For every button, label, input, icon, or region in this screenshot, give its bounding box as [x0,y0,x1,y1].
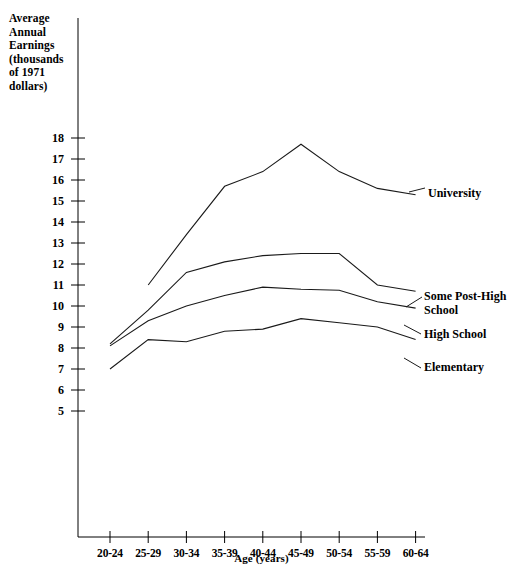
series-label-elementary: Elementary [424,360,484,374]
chart-container: Average Annual Earnings (thousands of 19… [0,0,523,581]
y-axis-tick-7: 7 [30,362,64,377]
y-axis-tick-15: 15 [30,194,64,209]
leader-high-school [404,325,421,334]
series-line-high-school [110,287,416,346]
y-axis-tick-8: 8 [30,341,64,356]
series-line-elementary [110,319,416,369]
y-axis-tick-13: 13 [30,236,64,251]
series-label-university: University [428,186,481,200]
leader-elementary [404,358,421,368]
y-axis-tick-5: 5 [30,404,64,419]
y-axis-tick-12: 12 [30,257,64,272]
y-axis-tick-14: 14 [30,215,64,230]
y-axis-tick-18: 18 [30,131,64,146]
y-axis-tick-11: 11 [30,278,64,293]
series-label-high-school: High School [424,327,486,341]
y-axis-tick-9: 9 [30,320,64,335]
y-axis-tick-17: 17 [30,152,64,167]
leader-university [409,188,425,192]
series-line-some-post-high-school [110,254,416,344]
y-axis-tick-10: 10 [30,299,64,314]
y-axis-tick-6: 6 [30,383,64,398]
x-axis-title: Age (years) [0,552,523,566]
leader-post-high [406,297,422,307]
series-label-some-post-high-school: Some Post-High School [424,289,506,317]
series-line-university [148,144,415,285]
y-axis-tick-16: 16 [30,173,64,188]
